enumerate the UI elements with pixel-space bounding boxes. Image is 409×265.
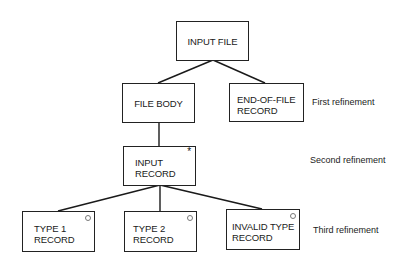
- edge-input-file-to-end-of-file-record: [213, 60, 265, 83]
- selection-marker-icon: [290, 213, 296, 219]
- node-label: TYPE 2 RECORD: [133, 223, 174, 245]
- level-label-first-refinement: First refinement: [312, 97, 375, 107]
- node-label: END-OF-FILE RECORD: [237, 94, 296, 116]
- node-label: TYPE 1 RECORD: [34, 223, 75, 245]
- node-type-1-record: TYPE 1 RECORD: [22, 211, 95, 252]
- node-type-2-record: TYPE 2 RECORD: [124, 211, 197, 252]
- edge-input-file-to-file-body: [158, 60, 213, 83]
- node-label: INVALID TYPE RECORD: [232, 221, 294, 243]
- node-label: INPUT FILE: [177, 36, 248, 47]
- level-label-third-refinement: Third refinement: [313, 225, 379, 235]
- node-label: INPUT RECORD: [135, 157, 176, 179]
- edge-input-record-to-type-1: [58, 185, 160, 211]
- node-file-body: FILE BODY: [122, 83, 195, 123]
- node-end-of-file-record: END-OF-FILE RECORD: [229, 83, 304, 122]
- node-input-record: INPUT RECORD *: [123, 146, 196, 186]
- node-invalid-type-record: INVALID TYPE RECORD: [226, 209, 300, 250]
- level-label-second-refinement: Second refinement: [310, 155, 386, 165]
- node-input-file: INPUT FILE: [176, 21, 249, 61]
- selection-marker-icon: [187, 215, 193, 221]
- selection-marker-icon: [85, 215, 91, 221]
- structure-diagram: INPUT FILE FILE BODY END-OF-FILE RECORD …: [0, 0, 409, 265]
- edge-input-record-to-invalid-type: [160, 185, 262, 209]
- iteration-marker-icon: *: [187, 148, 191, 156]
- node-label: FILE BODY: [123, 98, 194, 109]
